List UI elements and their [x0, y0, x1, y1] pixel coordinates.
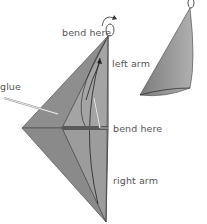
cone-loop: [188, 0, 194, 8]
label-right-arm: right arm: [113, 175, 158, 186]
label-bend-here-mid: bend here: [113, 123, 162, 134]
cone-body: [140, 8, 193, 96]
label-glue: glue: [0, 81, 21, 92]
label-left-arm: left arm: [112, 58, 150, 69]
label-bend-here-top: bend here: [62, 27, 111, 38]
finished-cone: [140, 0, 194, 96]
folded-kite: [22, 15, 117, 222]
